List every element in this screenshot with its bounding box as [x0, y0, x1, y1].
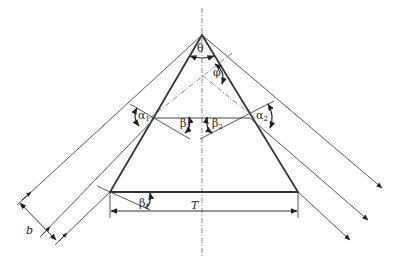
arc-alpha2 [268, 104, 272, 128]
prism-diagram [0, 0, 396, 262]
exit-ray-top [202, 35, 382, 188]
normal-line-right [202, 75, 255, 118]
label-beta2: β2 [212, 118, 223, 131]
arc-theta [190, 56, 214, 58]
label-beta-base: β1 [139, 198, 150, 211]
label-phi: φ [213, 67, 221, 78]
incident-ray-middle [40, 118, 155, 237]
label-alpha1: α1 [138, 110, 150, 123]
label-theta: θ [197, 43, 204, 54]
incident-ray-top [17, 35, 202, 205]
exit-ray-bottom [298, 192, 350, 240]
label-alpha2: α2 [256, 110, 268, 123]
label-beta1: β1 [180, 118, 191, 131]
label-b: b [26, 225, 33, 236]
exit-ray-middle [250, 118, 368, 220]
label-T: T [191, 200, 198, 211]
